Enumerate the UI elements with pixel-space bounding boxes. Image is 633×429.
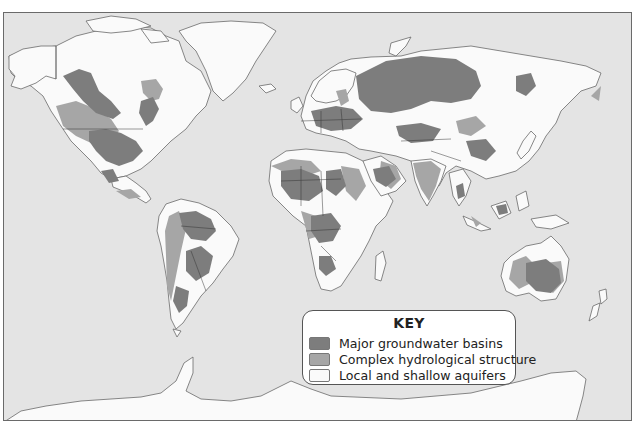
legend-swatch-complex-structure <box>309 353 330 366</box>
legend-label: Local and shallow aquifers <box>339 368 506 383</box>
legend-item-local-shallow: Local and shallow aquifers <box>309 368 506 383</box>
legend-swatch-local-shallow <box>309 369 330 382</box>
legend-item-major-basins: Major groundwater basins <box>309 336 503 351</box>
legend-swatch-major-basins <box>309 337 330 350</box>
map-legend: KEY Major groundwater basins Complex hyd… <box>302 310 516 385</box>
legend-item-complex-structure: Complex hydrological structure <box>309 352 536 367</box>
legend-title: KEY <box>303 315 515 331</box>
legend-label: Major groundwater basins <box>339 336 503 351</box>
legend-label: Complex hydrological structure <box>339 352 536 367</box>
